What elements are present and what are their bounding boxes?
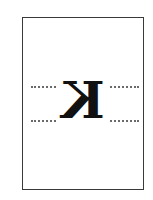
- mirrored-letter: K: [58, 78, 108, 124]
